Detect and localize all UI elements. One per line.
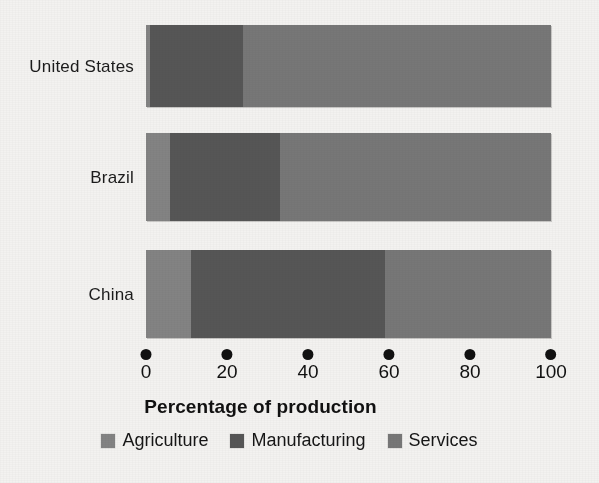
axis-tick-label: 0 [141, 362, 152, 382]
axis-tick-label: 80 [459, 362, 480, 382]
value-axis: 020406080100 [146, 349, 551, 399]
axis-tick: 20 [216, 349, 237, 382]
axis-tick: 80 [459, 349, 480, 382]
axis-tick-label: 20 [216, 362, 237, 382]
bar-segment-agriculture [146, 133, 170, 221]
axis-tick-label: 100 [535, 362, 567, 382]
legend-swatch-icon [388, 434, 402, 448]
bar-brazil [146, 133, 551, 221]
legend-item: Manufacturing [230, 430, 365, 451]
axis-tick-label: 40 [297, 362, 318, 382]
category-label-united-states: United States [8, 57, 134, 77]
bar-segment-services [385, 250, 551, 338]
bar-united-states [146, 25, 551, 107]
axis-tick: 60 [378, 349, 399, 382]
legend-label: Agriculture [122, 430, 208, 451]
category-label-china: China [8, 285, 134, 305]
tick-dot-icon [221, 349, 232, 360]
legend-label: Manufacturing [251, 430, 365, 451]
bar-segment-manufacturing [170, 133, 279, 221]
stacked-bar-chart: United States Brazil China 020406080100 … [0, 0, 599, 483]
category-label-brazil: Brazil [8, 168, 134, 188]
axis-tick: 100 [535, 349, 567, 382]
tick-dot-icon [464, 349, 475, 360]
tick-dot-icon [141, 349, 152, 360]
axis-title: Percentage of production [0, 396, 599, 418]
axis-tick: 0 [141, 349, 152, 382]
bar-segment-services [243, 25, 551, 107]
bar-china [146, 250, 551, 338]
tick-dot-icon [545, 349, 556, 360]
bar-segment-services [280, 133, 551, 221]
legend-swatch-icon [230, 434, 244, 448]
bar-segment-manufacturing [191, 250, 385, 338]
legend-swatch-icon [101, 434, 115, 448]
bar-segment-agriculture [146, 250, 191, 338]
legend-item: Services [388, 430, 478, 451]
legend: AgricultureManufacturingServices [0, 430, 599, 451]
axis-tick-label: 60 [378, 362, 399, 382]
bar-segment-manufacturing [150, 25, 243, 107]
tick-dot-icon [383, 349, 394, 360]
tick-dot-icon [302, 349, 313, 360]
legend-label: Services [409, 430, 478, 451]
axis-tick: 40 [297, 349, 318, 382]
legend-item: Agriculture [101, 430, 208, 451]
